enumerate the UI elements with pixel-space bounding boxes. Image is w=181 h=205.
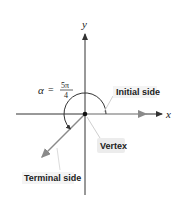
y-axis-label: y <box>81 18 87 30</box>
svg-text:=: = <box>48 84 54 95</box>
initial-side-label: Initial side <box>116 87 160 97</box>
terminal-side-label: Terminal side <box>24 173 81 183</box>
angle-diagram: y x α = 5π 4 Initial side Vertex Termina… <box>0 0 181 205</box>
terminal-side-leader <box>57 148 60 170</box>
vertex-label: Vertex <box>100 141 127 151</box>
x-axis-label: x <box>165 108 171 120</box>
svg-text:4: 4 <box>64 91 68 100</box>
vertex-point <box>83 112 88 117</box>
svg-text:α: α <box>38 84 44 96</box>
angle-label: α = 5π 4 <box>38 81 73 100</box>
svg-text:5π: 5π <box>61 81 69 90</box>
terminal-side-ray <box>42 114 85 157</box>
vertex-leader <box>87 117 100 138</box>
initial-side-leader <box>104 96 113 112</box>
